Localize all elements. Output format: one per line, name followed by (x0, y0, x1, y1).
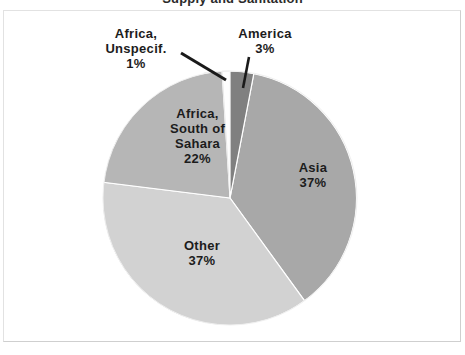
slice-label-africa-south-of-sahara: Africa, South of Sahara 22% (140, 106, 255, 166)
slice-label-africa-unspecified: Africa, Unspecif. 1% (76, 26, 196, 71)
slice-label-asia: Asia 37% (270, 160, 356, 190)
slice-label-other: Other 37% (152, 238, 252, 268)
pie-chart-figure: Supply and Sanitation Africa, Unspecif. … (0, 0, 465, 355)
slice-label-america: America 3% (205, 26, 325, 56)
